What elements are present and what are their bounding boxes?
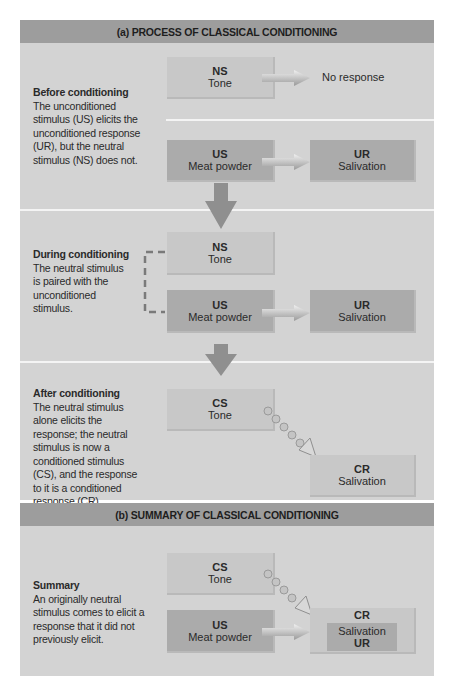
after-cr-box: CR Salivation	[310, 455, 416, 497]
during-ns-box: NS Tone	[167, 232, 275, 275]
after-text: The neutral stimulus alone elicits the r…	[33, 401, 137, 508]
down-arrow-icon	[205, 183, 237, 229]
summary-header: (b) SUMMARY OF CLASSICAL CONDITIONING	[20, 503, 434, 526]
during-description: During conditioning The neutral stimulus…	[33, 248, 133, 316]
summary-us-arrow-icon	[262, 624, 312, 640]
summary-description: Summary An originally neutral stimulus c…	[33, 579, 153, 647]
summary-us-abbr: US	[212, 619, 227, 631]
before-us-arrow-icon	[262, 154, 312, 170]
summary-header-title: (b) SUMMARY OF CLASSICAL CONDITIONING	[115, 509, 338, 521]
before-ns-arrow-icon	[262, 70, 312, 86]
summary-us-label: Meat powder	[188, 631, 252, 643]
after-dotted-arrow-icon	[262, 405, 322, 460]
down-arrow-icon	[205, 344, 237, 376]
before-ns-label: Tone	[208, 77, 232, 89]
before-description: Before conditioning The unconditioned st…	[33, 86, 153, 167]
summary-title: Summary	[33, 579, 153, 593]
pairing-bracket-icon	[143, 250, 167, 314]
after-title: After conditioning	[33, 387, 145, 401]
after-description: After conditioning The neutral stimulus …	[33, 387, 145, 509]
before-inner-divider	[166, 119, 434, 121]
after-cs-box: CS Tone	[167, 389, 275, 431]
summary-ur-abbr: UR	[354, 637, 370, 649]
process-header-title: (a) PROCESS OF CLASSICAL CONDITIONING	[117, 26, 338, 38]
during-text: The neutral stimulus is paired with the …	[33, 262, 124, 315]
summary-cr-abbr: CR	[354, 609, 370, 621]
before-ns-abbr: NS	[212, 65, 227, 77]
before-us-abbr: US	[212, 148, 227, 160]
during-us-box: US Meat powder	[167, 290, 275, 333]
before-us-box: US Meat powder	[167, 140, 275, 182]
during-us-label: Meat powder	[188, 311, 252, 323]
before-ns-box: NS Tone	[167, 57, 275, 99]
summary-cs-box: CS Tone	[167, 553, 275, 595]
summary-cr-inner-box: Salivation UR	[327, 623, 397, 651]
before-ur-label: Salivation	[338, 160, 386, 172]
after-cs-label: Tone	[208, 409, 232, 421]
after-cr-label: Salivation	[338, 475, 386, 487]
during-us-abbr: US	[212, 299, 227, 311]
during-ns-abbr: NS	[212, 241, 227, 253]
summary-cr-box: CR Salivation UR	[310, 608, 416, 654]
no-response-label: No response	[322, 71, 384, 83]
during-ur-label: Salivation	[338, 311, 386, 323]
during-title: During conditioning	[33, 248, 133, 262]
during-ur-box: UR Salivation	[310, 290, 416, 333]
during-ur-abbr: UR	[354, 299, 370, 311]
before-ur-box: UR Salivation	[310, 140, 416, 182]
during-ns-label: Tone	[208, 253, 232, 265]
summary-us-box: US Meat powder	[167, 610, 275, 653]
summary-cr-label: Salivation	[338, 625, 386, 637]
process-header: (a) PROCESS OF CLASSICAL CONDITIONING	[20, 20, 434, 43]
after-cr-abbr: CR	[354, 463, 370, 475]
before-text: The unconditioned stimulus (US) elicits …	[33, 100, 140, 166]
after-cs-abbr: CS	[212, 397, 227, 409]
summary-text: An originally neutral stimulus comes to …	[33, 593, 145, 646]
before-us-label: Meat powder	[188, 160, 252, 172]
during-us-arrow-icon	[262, 305, 312, 321]
before-title: Before conditioning	[33, 86, 153, 100]
before-ur-abbr: UR	[354, 148, 370, 160]
summary-cs-abbr: CS	[212, 561, 227, 573]
summary-cs-label: Tone	[208, 573, 232, 585]
